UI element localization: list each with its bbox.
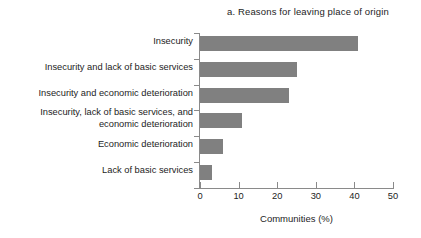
category-label: Lack of basic services: [3, 165, 193, 176]
bar: [200, 165, 212, 180]
x-axis-tick: [393, 182, 394, 188]
x-axis-tick-label: 0: [185, 191, 215, 201]
bar: [200, 36, 358, 51]
y-axis-tick: [194, 59, 200, 60]
x-axis-tick-label: 40: [339, 191, 369, 201]
x-axis-line: [199, 188, 394, 189]
bar: [200, 62, 297, 77]
category-label: Insecurity and lack of basic services: [3, 62, 193, 73]
x-axis-tick: [354, 182, 355, 188]
bar: [200, 113, 242, 128]
y-axis-tick: [194, 85, 200, 86]
x-axis-tick: [316, 182, 317, 188]
bar: [200, 139, 223, 154]
bar-row: Insecurity, lack of basic services, and …: [0, 110, 421, 136]
x-axis-tick-label: 20: [262, 191, 292, 201]
category-label: Economic deterioration: [3, 139, 193, 150]
y-axis-tick: [194, 136, 200, 137]
y-axis-tick: [194, 188, 200, 189]
x-axis-tick-label: 10: [224, 191, 254, 201]
plot-area: Insecurity Insecurity and lack of basic …: [0, 0, 421, 238]
category-label: Insecurity, lack of basic services, and …: [3, 107, 193, 130]
x-axis-tick: [277, 182, 278, 188]
x-axis-tick: [200, 182, 201, 188]
bar-row: Economic deterioration: [0, 136, 421, 162]
y-axis-tick: [194, 33, 200, 34]
x-axis-title: Communities (%): [199, 213, 394, 224]
x-axis-tick: [239, 182, 240, 188]
y-axis-tick: [194, 110, 200, 111]
category-label: Insecurity: [3, 36, 193, 47]
x-axis-tick-label: 50: [378, 191, 408, 201]
x-axis-tick-label: 30: [301, 191, 331, 201]
bar-row: Lack of basic services: [0, 162, 421, 188]
bar-row: Insecurity: [0, 33, 421, 59]
category-label: Insecurity and economic deterioration: [3, 88, 193, 99]
bar: [200, 88, 289, 103]
bar-chart-figure: a. Reasons for leaving place of origin I…: [0, 0, 421, 238]
bar-row: Insecurity and lack of basic services: [0, 59, 421, 85]
y-axis-tick: [194, 162, 200, 163]
